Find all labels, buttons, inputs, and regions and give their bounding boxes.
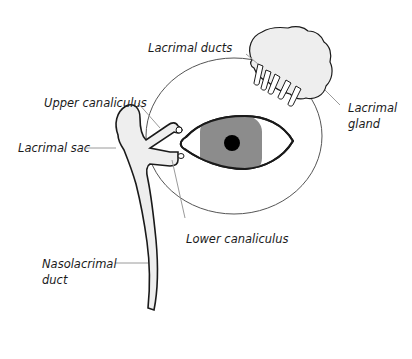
label-lacrimal-sac: Lacrimal sac <box>18 140 90 156</box>
label-lacrimal-gland-line1: Lacrimal <box>348 100 397 116</box>
label-nasolacrimal-duct-line2: duct <box>42 272 67 288</box>
label-lacrimal-ducts: Lacrimal ducts <box>148 40 232 56</box>
lacrimal-sac-and-nasolacrimal-duct <box>116 105 182 310</box>
label-nasolacrimal-duct-line1: Nasolacrimal <box>42 256 117 272</box>
pupil <box>224 135 240 151</box>
lower-punctum <box>178 154 184 159</box>
label-lacrimal-gland-line2: gland <box>348 116 380 132</box>
upper-punctum <box>176 127 182 133</box>
label-upper-canaliculus: Upper canaliculus <box>44 95 147 111</box>
leader-lacrimal-gland <box>325 90 340 105</box>
leader-lower-canaliculus <box>172 160 185 218</box>
label-lower-canaliculus: Lower canaliculus <box>186 231 289 247</box>
